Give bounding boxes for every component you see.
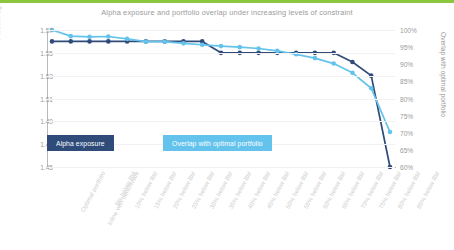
right-tick-label: 65%	[400, 147, 440, 154]
gridline	[47, 53, 395, 54]
x-tick-label: 15% below BM	[152, 170, 178, 210]
gridline	[47, 99, 395, 100]
gridline	[47, 76, 395, 77]
data-point	[144, 39, 149, 44]
x-tick-label: 10% below BM	[133, 170, 159, 210]
left-axis-title: Portfolio alpha exposure	[0, 0, 1, 40]
x-tick-label: 60% below BM	[321, 170, 347, 210]
data-point	[68, 34, 73, 39]
data-point	[256, 46, 261, 51]
right-tick-label: 90%	[400, 61, 440, 68]
x-tick-label: 55% below BM	[302, 170, 328, 210]
data-point	[350, 71, 355, 76]
right-axis-title: Overlap with optimal portfolio	[440, 32, 447, 172]
data-point	[87, 35, 92, 40]
data-point	[350, 60, 355, 65]
x-tick-label: 35% below BM	[227, 170, 253, 210]
data-point	[50, 39, 55, 44]
top-accent-bar	[0, 0, 454, 3]
data-point	[87, 39, 92, 44]
x-tick-label: Inline with benchmark	[106, 170, 140, 226]
data-point	[106, 39, 111, 44]
data-point	[125, 37, 130, 42]
x-tick-label: 65% below BM	[340, 170, 366, 210]
right-tick-label: 70%	[400, 130, 440, 137]
x-tick-label: 70% below BM	[359, 170, 385, 210]
legend-item-alpha-exposure[interactable]: Alpha exposure	[47, 135, 114, 151]
data-point	[388, 130, 393, 135]
right-tick-label: 80%	[400, 96, 440, 103]
right-tick-label: 60%	[400, 164, 440, 171]
chart-title: Alpha exposure and portfolio overlap und…	[0, 8, 454, 17]
right-tick-label: 85%	[400, 78, 440, 85]
x-tick-label: 80% below BM	[396, 170, 422, 210]
x-tick-label: 20% below BM	[171, 170, 197, 210]
data-point	[106, 34, 111, 39]
gridline	[47, 121, 395, 122]
right-tick-label: 100%	[400, 27, 440, 34]
x-tick-label: 30% below BM	[208, 170, 234, 210]
right-tick-label: 95%	[400, 44, 440, 51]
data-point	[237, 45, 242, 50]
x-tick-label: 45% below BM	[265, 170, 291, 210]
x-tick-label: 40% below BM	[246, 170, 272, 210]
x-tick-label: 5% below BM	[113, 170, 137, 207]
data-point	[219, 44, 224, 49]
x-tick-label: 75% below BM	[377, 170, 403, 210]
x-tick-label: 50% below BM	[283, 170, 309, 210]
x-tick-label: 85% below BM	[415, 170, 441, 210]
data-point	[331, 61, 336, 66]
gridline	[47, 30, 395, 31]
data-point	[200, 42, 205, 47]
gridline	[47, 167, 395, 168]
x-tick-label: Optimal portfolio	[79, 170, 106, 213]
legend-item-overlap[interactable]: Overlap with optimal portfolio	[163, 135, 272, 151]
data-point	[162, 39, 167, 44]
data-point	[68, 39, 73, 44]
x-tick-label: 25% below BM	[190, 170, 216, 210]
data-point	[181, 41, 186, 46]
data-point	[369, 86, 374, 91]
right-tick-label: 75%	[400, 113, 440, 120]
data-point	[313, 56, 318, 61]
